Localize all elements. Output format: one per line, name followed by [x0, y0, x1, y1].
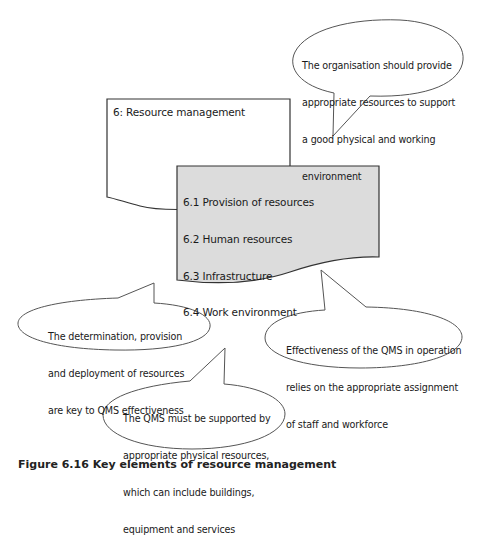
- callout-line: and deployment of resources: [48, 368, 184, 380]
- callout-line: The QMS must be supported by: [123, 413, 271, 425]
- callout-line: appropriate resources to support: [302, 97, 455, 109]
- callout-line: of staff and workforce: [286, 419, 461, 431]
- callout-line: Effectiveness of the QMS in operation: [286, 345, 461, 357]
- callout-top-right-text: The organisation should provide appropri…: [302, 35, 455, 196]
- callout-right-text: Effectiveness of the QMS in operation re…: [286, 320, 461, 444]
- main-document-title: 6: Resource management: [113, 106, 245, 119]
- sub-document-item: 6.3 Infrastructure: [183, 270, 314, 282]
- callout-line: The organisation should provide: [302, 60, 455, 72]
- callout-line: which can include buildings,: [123, 487, 271, 499]
- sub-document-item: 6.2 Human resources: [183, 233, 314, 245]
- callout-line: relies on the appropriate assignment: [286, 382, 461, 394]
- sub-document-item: 6.1 Provision of resources: [183, 196, 314, 208]
- callout-line: equipment and services: [123, 524, 271, 536]
- figure-caption: Figure 6.16 Key elements of resource man…: [18, 458, 336, 471]
- callout-line: a good physical and working: [302, 134, 455, 146]
- sub-document-item: 6.4 Work environment: [183, 306, 314, 318]
- callout-line: The determination, provision: [48, 331, 184, 343]
- sub-document-list: 6.1 Provision of resources 6.2 Human res…: [183, 172, 314, 331]
- callout-line: environment: [302, 171, 455, 183]
